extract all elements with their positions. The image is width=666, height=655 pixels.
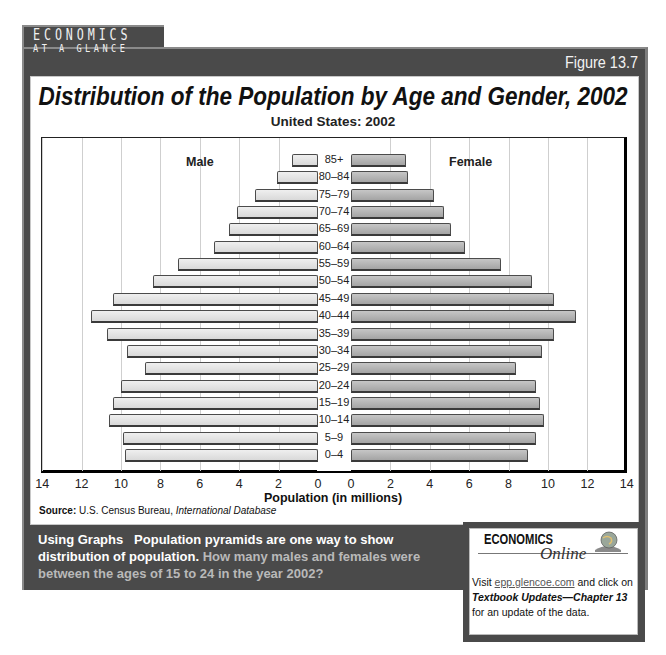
and-click-text: and click on	[577, 576, 632, 588]
female-bar	[351, 154, 406, 167]
gridline	[82, 138, 83, 471]
x-tick-label: 6	[188, 477, 212, 491]
age-group-label: 30–34	[317, 344, 351, 356]
source-note: Source: U.S. Census Bureau, Internationa…	[39, 505, 276, 516]
female-bar	[351, 189, 434, 202]
x-tick-label: 12	[70, 477, 94, 491]
male-bar	[121, 380, 318, 393]
x-tick-label: 4	[227, 477, 251, 491]
male-bar	[113, 397, 318, 410]
male-bar	[127, 345, 318, 358]
male-bar	[145, 362, 318, 375]
age-group-label: 80–84	[317, 170, 351, 182]
age-group-label: 5–9	[317, 431, 351, 443]
online-script: Online	[540, 544, 586, 564]
question-lead: Using Graphs	[38, 532, 123, 547]
female-bar	[351, 171, 408, 184]
x-tick-label: 4	[418, 477, 442, 491]
x-tick-label: 2	[378, 477, 402, 491]
x-tick-label: 8	[148, 477, 172, 491]
age-group-label: 15–19	[317, 396, 351, 408]
using-graphs-question: Using Graphs Population pyramids are one…	[38, 531, 458, 582]
age-group-label: 10–14	[317, 413, 351, 425]
chart-title: Distribution of the Population by Age an…	[33, 82, 632, 111]
globe-book-icon	[593, 530, 623, 552]
brand-line-1: ECONOMICS	[33, 28, 131, 43]
female-bar	[351, 414, 544, 427]
x-tick-label: 2	[267, 477, 291, 491]
age-group-label: 35–39	[317, 327, 351, 339]
male-bar	[292, 154, 318, 167]
male-bar	[153, 275, 318, 288]
female-bar	[351, 275, 532, 288]
age-group-label: 50–54	[317, 274, 351, 286]
age-group-label: 20–24	[317, 379, 351, 391]
x-tick-label: 0	[339, 477, 363, 491]
textbook-updates-text: Textbook Updates—Chapter 13	[472, 591, 627, 603]
age-group-label: 70–74	[317, 205, 351, 217]
x-tick-label: 14	[615, 477, 639, 491]
update-tail-text: for an update of the data.	[472, 606, 589, 618]
female-bar	[351, 258, 501, 271]
male-bar	[237, 206, 318, 219]
legend-male: Male	[186, 155, 214, 169]
age-group-label: 40–44	[317, 309, 351, 321]
source-text: U.S. Census Bureau,	[79, 505, 173, 516]
age-group-label: 45–49	[317, 292, 351, 304]
x-tick-label: 8	[497, 477, 521, 491]
x-tick-label: 12	[575, 477, 599, 491]
legend-female: Female	[449, 155, 492, 169]
male-bar	[123, 432, 318, 445]
source-database: International Database	[176, 505, 277, 516]
age-group-label: 25–29	[317, 361, 351, 373]
female-bar	[351, 293, 554, 306]
economics-at-a-glance-brand: ECONOMICS AT A GLANCE	[33, 28, 159, 55]
male-bar	[178, 258, 318, 271]
female-bar	[351, 432, 536, 445]
x-tick-label: 14	[30, 477, 54, 491]
visit-text: Visit	[472, 576, 492, 588]
male-bar	[255, 189, 318, 202]
female-bar	[351, 206, 444, 219]
male-bar	[107, 328, 318, 341]
age-group-label: 0–4	[317, 448, 351, 460]
age-group-label: 55–59	[317, 257, 351, 269]
online-instructions: Visit epp.glencoe.com and click on Textb…	[472, 575, 634, 620]
female-bar	[351, 223, 451, 236]
age-group-label: 65–69	[317, 222, 351, 234]
female-bar	[351, 310, 576, 323]
female-bar	[351, 362, 516, 375]
source-label: Source:	[39, 505, 76, 516]
female-bar	[351, 328, 554, 341]
female-bar	[351, 397, 540, 410]
brand-line-2: AT A GLANCE	[33, 43, 131, 55]
male-bar	[109, 414, 318, 427]
female-bar	[351, 345, 542, 358]
female-bar	[351, 380, 536, 393]
age-group-label: 60–64	[317, 240, 351, 252]
female-bar	[351, 241, 465, 254]
gridline	[587, 138, 588, 471]
male-bar	[229, 223, 318, 236]
female-bar	[351, 449, 528, 462]
male-bar	[113, 293, 318, 306]
x-axis-label: Population (in millions)	[0, 491, 666, 505]
chart-subtitle: United States: 2002	[0, 114, 666, 129]
male-bar	[91, 310, 318, 323]
figure-label: Figure 13.7	[565, 53, 638, 73]
male-bar	[214, 241, 318, 254]
x-tick-label: 6	[457, 477, 481, 491]
glencoe-link[interactable]: epp.glencoe.com	[495, 576, 575, 588]
age-group-label: 75–79	[317, 188, 351, 200]
x-tick-label: 10	[109, 477, 133, 491]
x-tick-label: 10	[536, 477, 560, 491]
male-bar	[125, 449, 318, 462]
gridline	[42, 138, 43, 471]
male-bar	[277, 171, 318, 184]
x-tick-label: 0	[306, 477, 330, 491]
age-group-label: 85+	[317, 153, 351, 165]
